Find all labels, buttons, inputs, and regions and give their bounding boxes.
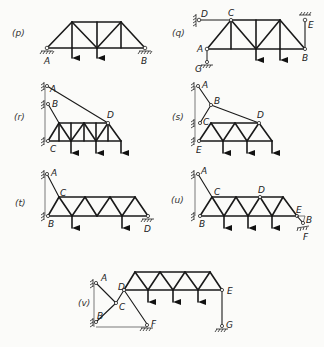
node-label: B	[306, 215, 312, 225]
panel-s: (s)	[172, 80, 272, 155]
supports-v	[90, 279, 228, 332]
panel-r: (r)	[14, 82, 121, 154]
node-label: F	[303, 232, 309, 242]
panel-label-s: (s)	[172, 112, 184, 122]
node-label: B	[302, 53, 308, 63]
node-label: G	[226, 320, 233, 330]
load-arrows-p	[72, 48, 97, 58]
node-label: E	[227, 286, 233, 296]
support-D-q	[193, 14, 201, 27]
node-label: C	[50, 144, 57, 154]
node-label: D	[107, 110, 114, 120]
truss-q-members	[199, 20, 305, 62]
truss-u-members	[198, 174, 303, 223]
node-label: F	[151, 319, 157, 329]
load-arrows-v	[148, 290, 198, 302]
panel-v: (v)	[78, 272, 233, 332]
panel-p: (p) A B	[12, 22, 152, 66]
node-label: C	[214, 187, 221, 197]
truss-figure: (p) A B (q)	[0, 0, 324, 347]
node-label: C	[119, 302, 126, 312]
load-arrows-s	[223, 141, 272, 153]
node-label: B	[48, 219, 54, 229]
node-label: G	[195, 64, 202, 74]
truss-p-members	[47, 22, 145, 48]
panel-t: (t) A	[15, 168, 154, 234]
node-label: D	[118, 282, 125, 292]
node-label: A	[49, 84, 56, 94]
node-label: D	[258, 185, 265, 195]
node-label: B	[52, 99, 58, 109]
node-label: E	[296, 205, 302, 215]
node-label: D	[257, 110, 264, 120]
node-label: E	[196, 145, 202, 155]
node-label: B	[214, 96, 220, 106]
load-arrows-u	[224, 216, 272, 228]
node-label: C	[228, 8, 235, 18]
node-label: D	[144, 224, 151, 234]
panel-q: (q)	[172, 8, 314, 74]
panel-label-q: (q)	[172, 28, 185, 38]
node-label: A	[43, 56, 50, 66]
node-label: B	[141, 56, 147, 66]
load-arrows-r	[71, 141, 121, 153]
node-label: A	[201, 80, 208, 90]
node-label: E	[308, 20, 314, 30]
node-label: C	[203, 117, 210, 127]
supports-u	[191, 170, 309, 231]
node-label: B	[97, 311, 103, 321]
truss-v-members	[96, 272, 222, 326]
node-label: C	[60, 188, 67, 198]
node-label: A	[200, 166, 207, 176]
node-label: D	[201, 9, 208, 19]
panel-label-p: (p)	[12, 28, 25, 38]
node-label: A	[50, 168, 57, 178]
node-label: B	[199, 219, 205, 229]
node-label: A	[100, 273, 107, 283]
panel-label-t: (t)	[15, 198, 26, 208]
load-arrows-t	[72, 216, 122, 228]
truss-diagrams-svg: (p) A B (q)	[0, 0, 324, 347]
panel-label-v: (v)	[78, 298, 90, 308]
panel-u: (u)	[171, 166, 312, 242]
node-label: A	[196, 44, 203, 54]
load-arrows-q	[256, 49, 280, 60]
panel-label-u: (u)	[171, 195, 184, 205]
panel-label-r: (r)	[14, 112, 25, 122]
